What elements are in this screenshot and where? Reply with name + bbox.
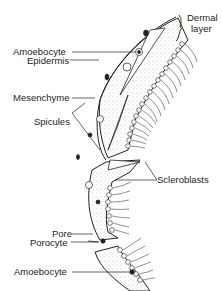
flagella-middle (111, 182, 131, 234)
label-amoebocyte-bottom: Amoebocyte (14, 267, 67, 277)
label-mesenchyme: Mesenchyme (13, 93, 70, 103)
lower-wall-section (95, 246, 150, 291)
middle-wall-section (89, 160, 140, 240)
sponge-body-wall-diagram: Dermal layer Amoebocyte Epidermis Mesenc… (0, 0, 222, 291)
label-porocyte: Porocyte (30, 238, 68, 248)
label-dermal-layer: Dermal (187, 13, 218, 23)
label-scleroblasts: Scleroblasts (157, 175, 209, 185)
label-spicules: Spicules (34, 117, 70, 127)
label-dermal-layer-2: layer (191, 24, 212, 34)
label-epidermis: Epidermis (27, 56, 69, 66)
